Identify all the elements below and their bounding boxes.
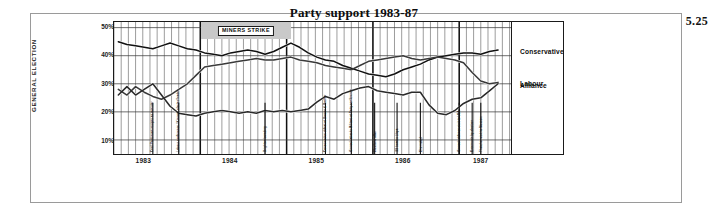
y-axis-label: GENERAL ELECTION [30,21,37,131]
event-annotation: Brighton bombing [264,126,267,152]
event-annotation: Kinnock defence visit to USA [459,110,462,152]
event-annotation: US bombs Libya [396,129,399,152]
plot-area: MINERS STRIKECecil Parkinson resigns as … [113,21,564,155]
x-tick-label: 1986 [395,157,410,164]
event-annotation: Chernobyl [420,137,423,152]
x-tick-label: 1987 [473,157,488,164]
x-tick-label: 1985 [309,157,324,164]
chart-title: Party support 1983-87 [113,5,595,21]
y-axis-ticks: 50%40%30%20%10% [88,21,114,155]
x-tick-label: 1984 [222,157,237,164]
y-tick-label: 30% [92,81,114,87]
series-label-conservative: Conservative [520,47,564,54]
event-annotation: Conservative defeat at Brecon & Radnor [324,95,327,152]
grid-region: MINERS STRIKECecil Parkinson resigns as … [114,22,512,154]
event-markers [114,22,511,154]
event-annotation: Kinnock attacks Militant at Party confer… [350,89,353,152]
event-annotation: Cecil Parkinson resigns as minister [151,101,154,152]
series-label-alliance: Alliance [520,81,547,88]
y-tick-label: 10% [92,138,114,144]
x-axis-labels: 19831984198519861987 [113,157,511,171]
event-annotation: Thatcher visit to Moscow [480,116,483,152]
figure-number: 5.25 [686,14,708,29]
y-tick-label: 20% [92,109,114,115]
event-annotation: Westland affair [374,131,377,152]
y-tick-label: 40% [92,52,114,58]
x-tick-label: 1983 [136,157,151,164]
y-tick-label: 50% [92,23,114,29]
event-annotation: Greenwich by-election [472,120,475,152]
event-annotation: Labour conference / Kinnock elected lead… [177,90,180,152]
